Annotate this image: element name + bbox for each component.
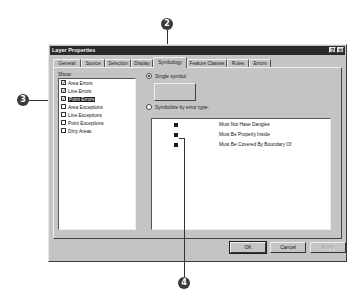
layer-properties-dialog: Layer Properties ? × General Source Sele… (48, 44, 347, 262)
symbolize-by-error-type-radio[interactable] (146, 104, 152, 110)
cancel-button[interactable]: Cancel (270, 242, 306, 253)
dialog-title: Layer Properties (52, 47, 95, 53)
callout-4-leader (184, 138, 185, 278)
checkbox-checked-icon[interactable]: ✓ (61, 80, 66, 85)
callout-4: 4 (178, 277, 190, 289)
single-symbol-label: Single symbol (155, 73, 186, 79)
checkbox-unchecked-icon[interactable] (61, 120, 66, 125)
show-item-point-errors[interactable]: ✓Point Errors (61, 96, 95, 103)
callout-2: 2 (161, 18, 173, 30)
close-icon[interactable]: × (337, 47, 344, 53)
ok-button[interactable]: OK (230, 242, 266, 253)
checkbox-checked-icon[interactable]: ✓ (61, 96, 66, 101)
show-item-area-errors[interactable]: ✓Area Errors (61, 80, 93, 87)
callout-3: 3 (17, 94, 29, 106)
checkbox-checked-icon[interactable]: ✓ (61, 88, 66, 93)
checkbox-unchecked-icon[interactable] (61, 104, 66, 109)
point-symbol-icon (174, 133, 178, 137)
checkbox-unchecked-icon[interactable] (61, 112, 66, 117)
single-symbol-preview-button[interactable] (154, 83, 196, 101)
checkbox-unchecked-icon[interactable] (61, 128, 66, 133)
show-item-area-exceptions[interactable]: Area Exceptions (61, 104, 103, 111)
title-bar: Layer Properties ? × (50, 46, 345, 55)
tab-symbology[interactable]: Symbology (153, 57, 187, 68)
show-item-line-errors[interactable]: ✓Line Errors (61, 88, 91, 95)
single-symbol-radio[interactable] (146, 73, 152, 79)
symbolize-by-error-type-label: Symbolize by error type: (155, 104, 209, 110)
apply-button[interactable]: Apply (310, 242, 346, 253)
show-label: Show: (58, 71, 72, 77)
point-symbol-icon (174, 143, 178, 147)
symbology-panel: Show: ✓Area Errors ✓Line Errors ✓Point E… (53, 67, 342, 239)
error-type-row-dangles[interactable]: Must Not Have Dangles (152, 121, 330, 129)
error-type-row-covered-by-boundary[interactable]: Must Be Covered By Boundary Of (152, 141, 330, 149)
error-type-listbox[interactable]: Must Not Have Dangles Must Be Properly I… (151, 118, 331, 230)
show-item-point-exceptions[interactable]: Point Exceptions (61, 120, 104, 127)
show-item-line-exceptions[interactable]: Line Exceptions (61, 112, 102, 119)
help-icon[interactable]: ? (329, 47, 336, 53)
point-symbol-icon (174, 123, 178, 127)
show-listbox[interactable]: ✓Area Errors ✓Line Errors ✓Point Errors … (58, 78, 136, 230)
show-item-dirty-areas[interactable]: Dirty Areas (61, 128, 91, 135)
